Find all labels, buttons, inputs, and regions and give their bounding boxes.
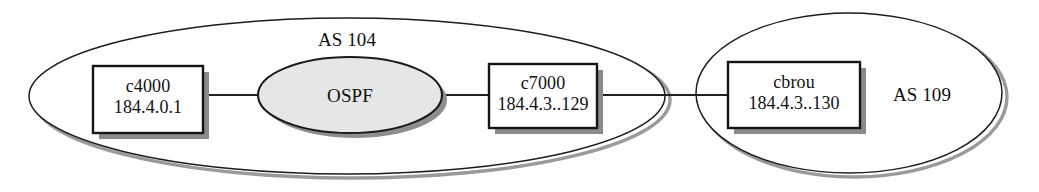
node-c4000-name: c4000 [93,76,203,97]
ospf-cloud-label: OSPF [300,85,400,107]
node-cbrou-name: cbrou [728,72,860,93]
node-c7000-label: c7000 184.4.3..129 [486,73,600,115]
as-104-label: AS 104 [297,29,397,51]
network-diagram: AS 104 AS 109 OSPF c4000 184.4.0.1 c7000… [0,0,1039,192]
node-cbrou-address: 184.4.3..130 [728,93,860,114]
node-c7000-address: 184.4.3..129 [486,94,600,115]
node-cbrou-label: cbrou 184.4.3..130 [728,72,860,114]
as-109-label: AS 109 [872,84,972,106]
node-c4000-label: c4000 184.4.0.1 [93,76,203,118]
node-c7000-name: c7000 [486,73,600,94]
node-c4000-address: 184.4.0.1 [93,97,203,118]
